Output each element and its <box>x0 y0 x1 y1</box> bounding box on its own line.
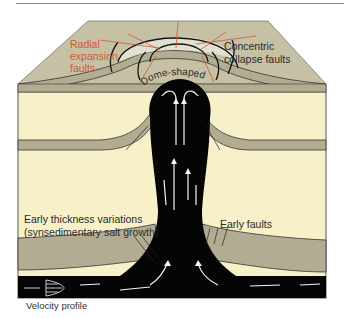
radial-label-1: Radial <box>70 38 100 50</box>
early-faults-label: Early faults <box>220 218 272 230</box>
radial-label-2: expansion <box>70 50 118 62</box>
early-thickness-label-1: Early thickness variations <box>24 213 142 225</box>
salt-diapir-diagram: Dome-shaped <box>0 0 344 318</box>
early-thickness-label-2: (synsedimentary salt growth) <box>24 226 158 238</box>
velocity-profile-caption: Velocity profile <box>26 300 87 311</box>
concentric-label-1: Concentric <box>224 40 274 52</box>
radial-label-3: faults <box>70 62 95 74</box>
concentric-label-2: collapse faults <box>224 53 291 65</box>
